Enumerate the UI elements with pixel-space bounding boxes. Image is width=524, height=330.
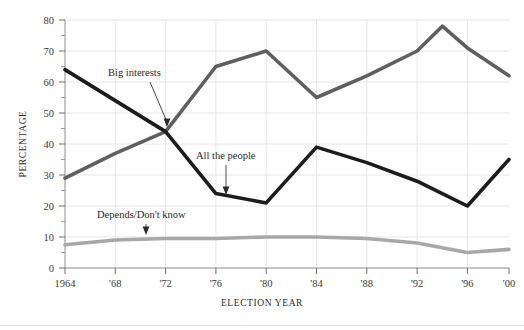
y-tick-label: 40 [44,139,55,150]
y-tick-label: 50 [44,108,55,119]
y-tick-label: 70 [44,46,55,57]
x-axis-title: ELECTION YEAR [221,298,303,308]
line-chart: ＂＂ [0,0,524,330]
x-tick-label: '00 [503,278,515,289]
x-tick-labels: 1964 '68 '72 '76 '80 '84 '88 '92 '96 '00 [55,278,516,289]
x-axis-ticks [65,268,509,274]
x-tick-label: '68 [109,278,121,289]
y-tick-label: 80 [44,15,55,26]
x-tick-label: '92 [411,278,423,289]
y-tick-label: 30 [44,170,55,181]
clipped-top-text: ＂＂ [240,0,258,7]
y-tick-labels: 80 70 60 50 40 30 20 10 0 [44,15,55,274]
annotation-label-big-interests: Big interests [108,67,161,78]
y-axis-title: PERCENTAGE [18,111,28,178]
x-tick-label: '80 [260,278,272,289]
y-tick-label: 0 [49,263,54,274]
chart-figure: ＂＂ [0,0,524,330]
x-tick-label: '84 [310,278,323,289]
x-tick-label: '88 [361,278,373,289]
x-tick-label: 1964 [55,278,77,289]
y-tick-label: 20 [44,201,55,212]
annotation-label-all-the-people: All the people [196,150,256,161]
bottom-divider [0,325,524,326]
x-tick-label: '72 [159,278,171,289]
y-axis-major-ticks [59,20,65,268]
x-tick-label: '76 [210,278,222,289]
x-tick-label: '96 [461,278,473,289]
y-tick-label: 60 [44,77,55,88]
annotation-label-depends-dont-know: Depends/Don't know [97,209,186,220]
y-tick-label: 10 [44,232,55,243]
